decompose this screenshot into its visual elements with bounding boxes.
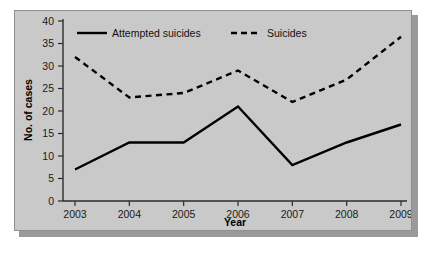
y-axis-tick-group: 0510152025303540 — [42, 15, 63, 207]
chart-panel: 0510152025303540 20032004200520062007200… — [14, 10, 412, 231]
x-axis-tick-label: 2008 — [335, 208, 359, 220]
y-axis-tick-label: 15 — [42, 127, 54, 139]
legend-label-attempted-suicides: Attempted suicides — [112, 27, 201, 39]
y-axis-tick-label: 0 — [48, 195, 54, 207]
y-axis-tick-label: 30 — [42, 60, 54, 72]
x-axis-tick-label: 2009 — [389, 208, 411, 220]
x-axis-tick-label: 2004 — [118, 208, 142, 220]
x-axis-title: Year — [224, 216, 246, 228]
chart-legend: Attempted suicides Suicides — [77, 27, 307, 39]
x-axis-tick-label: 2003 — [63, 208, 87, 220]
x-axis-tick-label: 2005 — [172, 208, 196, 220]
y-axis-tick-label: 10 — [42, 150, 54, 162]
legend-label-suicides: Suicides — [267, 27, 307, 39]
data-series-group — [75, 37, 401, 170]
x-axis-tick-label: 2007 — [281, 208, 305, 220]
series-line-suicides — [75, 37, 401, 102]
y-axis-tick-label: 40 — [42, 15, 54, 27]
y-axis-title: No. of cases — [22, 79, 34, 141]
series-line-attempted-suicides — [75, 107, 401, 170]
figure: 0510152025303540 20032004200520062007200… — [14, 10, 418, 237]
y-axis-tick-label: 5 — [48, 172, 54, 184]
y-axis-tick-label: 20 — [42, 105, 54, 117]
line-chart-svg: 0510152025303540 20032004200520062007200… — [15, 11, 411, 230]
y-axis-tick-label: 35 — [42, 37, 54, 49]
y-axis-tick-label: 25 — [42, 82, 54, 94]
